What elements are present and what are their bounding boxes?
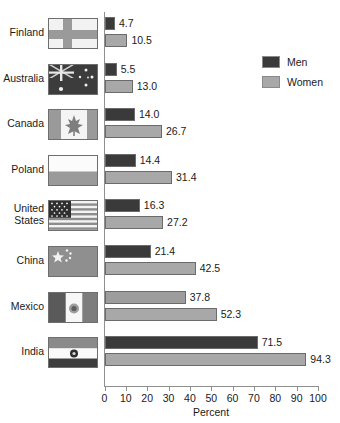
bar-women — [105, 262, 196, 275]
x-axis-tick — [190, 386, 191, 391]
x-axis-tick — [275, 386, 276, 391]
x-axis-tick — [147, 386, 148, 391]
bar-men — [105, 291, 186, 304]
category-label-line: China — [0, 255, 44, 267]
x-axis-tick — [318, 386, 319, 391]
bar-men — [105, 154, 136, 167]
bar-chart: 0102030405060708090100 Percent Finland4.… — [0, 0, 340, 423]
bar-women — [105, 171, 172, 184]
bar-value-men: 14.4 — [140, 154, 160, 167]
category-label-line: Canada — [0, 118, 44, 130]
x-axis-tick — [297, 386, 298, 391]
bar-women — [105, 308, 217, 321]
bar-men — [105, 336, 258, 349]
category-label-line: States — [0, 215, 44, 227]
flag-china-icon — [48, 246, 98, 277]
bar-value-men: 14.0 — [139, 108, 159, 121]
x-axis-tick — [211, 386, 212, 391]
category-label-line: India — [0, 346, 44, 358]
legend-swatch-women-icon — [262, 76, 280, 88]
flag-poland-icon — [48, 155, 98, 186]
x-axis-tick-label: 100 — [305, 392, 331, 404]
legend-item-women[interactable]: Women — [262, 73, 323, 90]
x-axis-tick — [169, 386, 170, 391]
flag-united-states-icon — [48, 200, 98, 231]
bar-value-men: 4.7 — [119, 17, 134, 30]
category-label: UnitedStates — [0, 203, 44, 226]
bar-women — [105, 125, 162, 138]
category-label-line: Australia — [0, 73, 44, 85]
bar-value-women: 27.2 — [167, 216, 187, 229]
category-label: Poland — [0, 164, 44, 176]
bar-value-men: 16.3 — [144, 199, 164, 212]
bar-women — [105, 34, 127, 47]
category-label: Mexico — [0, 301, 44, 313]
bar-group: Canada14.026.7 — [0, 108, 340, 142]
bar-value-men: 5.5 — [121, 63, 136, 76]
bar-group: Mexico37.852.3 — [0, 291, 340, 325]
bar-value-men: 21.4 — [155, 245, 175, 258]
x-axis-tick — [254, 386, 255, 391]
x-axis-tick — [105, 386, 106, 391]
bar-group: UnitedStates16.327.2 — [0, 199, 340, 233]
category-label-line: Mexico — [0, 301, 44, 313]
category-label: India — [0, 346, 44, 358]
category-label: Australia — [0, 73, 44, 85]
legend-item-men[interactable]: Men — [262, 53, 323, 70]
bar-men — [105, 199, 140, 212]
x-axis-tick — [233, 386, 234, 391]
bar-value-women: 52.3 — [221, 308, 241, 321]
category-label-line: Finland — [0, 27, 44, 39]
legend-label-women: Women — [287, 76, 323, 88]
bar-men — [105, 63, 117, 76]
category-label: Canada — [0, 118, 44, 130]
flag-australia-icon — [48, 64, 98, 95]
x-axis-tick — [126, 386, 127, 391]
bar-men — [105, 108, 135, 121]
legend-label-men: Men — [287, 56, 307, 68]
bar-men — [105, 245, 151, 258]
legend-swatch-men-icon — [262, 56, 280, 68]
bar-women — [105, 216, 163, 229]
category-label: China — [0, 255, 44, 267]
chart-title-remnant — [8, 0, 208, 7]
bar-group: Finland4.710.5 — [0, 17, 340, 51]
flag-canada-icon — [48, 109, 98, 140]
bar-value-women: 94.3 — [310, 353, 330, 366]
bar-value-women: 26.7 — [166, 125, 186, 138]
flag-india-icon — [48, 337, 98, 368]
bar-value-men: 37.8 — [190, 291, 210, 304]
bar-value-women: 31.4 — [176, 171, 196, 184]
bar-group: Poland14.431.4 — [0, 154, 340, 188]
bar-men — [105, 17, 115, 30]
x-axis-label: Percent — [104, 406, 318, 418]
legend: Men Women — [262, 53, 323, 93]
bar-women — [105, 80, 133, 93]
flag-finland-icon — [48, 18, 98, 49]
category-label-line: Poland — [0, 164, 44, 176]
bar-women — [105, 353, 306, 366]
bar-value-men: 71.5 — [262, 336, 282, 349]
bar-group: India71.594.3 — [0, 336, 340, 370]
bar-value-women: 13.0 — [137, 80, 157, 93]
bar-value-women: 10.5 — [131, 34, 151, 47]
category-label: Finland — [0, 27, 44, 39]
bar-group: China21.442.5 — [0, 245, 340, 279]
bar-value-women: 42.5 — [200, 262, 220, 275]
flag-mexico-icon — [48, 292, 98, 323]
